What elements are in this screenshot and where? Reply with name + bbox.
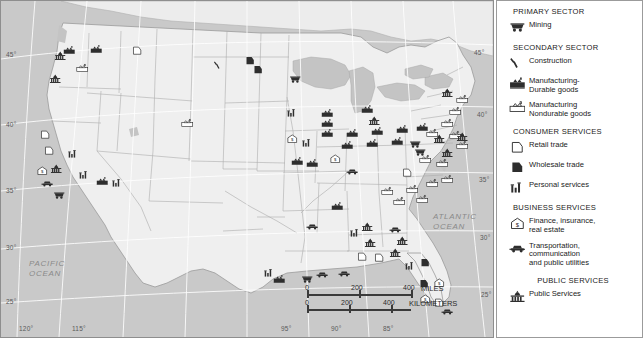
map-symbol-factory-light[interactable] [181, 113, 193, 131]
wholesale-filled-icon [505, 159, 529, 174]
lat-label-right-35: 35° [479, 176, 489, 183]
map-symbol-personal-bars[interactable] [404, 256, 416, 274]
lat-label-left-40: 40° [6, 121, 16, 128]
map-symbol-public[interactable] [49, 69, 61, 87]
legend-item-mining-cart[interactable]: Mining [505, 19, 638, 34]
legend-label: ManufacturingNondurable goods [529, 99, 591, 118]
map-symbol-personal-bars[interactable] [78, 165, 90, 183]
map-symbol-factory-dark[interactable] [331, 196, 343, 214]
map-symbol-factory-light[interactable] [419, 149, 431, 167]
scale-km-0: 0 [305, 299, 309, 306]
legend-item-factory-dark[interactable]: Manufacturing-Durable goods [505, 75, 638, 94]
scale-bar-miles: 0 200 400 MILES [297, 287, 427, 302]
personal-services-bars-icon [505, 179, 529, 194]
legend-item-wholesale-filled[interactable]: Wholesale trade [505, 159, 638, 174]
map-symbol-factory-dark[interactable] [391, 131, 403, 149]
map-symbol-personal-bars[interactable] [111, 173, 123, 191]
legend-heading-secondary-sector: SECONDARY SECTOR [513, 43, 638, 52]
legend-item-transportation-car[interactable]: Transportation,communicationand public u… [505, 240, 638, 268]
mining-cart-icon [505, 19, 529, 34]
map-symbol-factory-dark[interactable] [341, 135, 353, 153]
lat-label-left-30: 30° [6, 244, 16, 251]
atlantic-ocean-label: ATLANTICOCEAN [433, 212, 477, 232]
lat-label-left-25: 25° [6, 298, 16, 305]
lon-label-120: 120° [19, 325, 33, 332]
map-symbol-factory-dark[interactable] [291, 151, 303, 169]
map-panel[interactable]: PACIFICOCEAN ATLANTICOCEAN 45° 40° 35° 3… [0, 0, 494, 338]
map-symbol-personal-bars[interactable] [301, 133, 313, 151]
legend-item-public-services-capitol[interactable]: Public Services [505, 288, 638, 303]
map-symbol-transportation-car[interactable] [346, 161, 358, 179]
map-symbol-factory-light[interactable] [381, 181, 393, 199]
legend-label: Personal services [529, 179, 589, 190]
map-symbol-factory-dark[interactable] [321, 123, 333, 141]
map-symbol-mining-cart[interactable] [53, 185, 65, 203]
legend-label: Transportation,communicationand public u… [529, 240, 589, 268]
legend-label: Finance, insurance,real estate [529, 215, 595, 234]
construction-hammer-icon [505, 55, 529, 70]
map-symbol-factory-dark[interactable] [96, 171, 108, 189]
legend-item-retail-outline[interactable]: Retail trade [505, 139, 638, 154]
map-symbol-transportation-car[interactable] [338, 263, 350, 281]
legend-panel[interactable]: PRIMARY SECTOR MiningSECONDARY SECTOR Co… [496, 0, 643, 338]
map-symbol-finance-house[interactable]: $ [329, 149, 341, 167]
retail-outline-icon [505, 139, 529, 154]
factory-light-icon [505, 99, 529, 114]
legend-label: Retail trade [529, 139, 568, 150]
pacific-ocean-label: PACIFICOCEAN [29, 259, 65, 279]
map-symbol-public[interactable] [54, 46, 66, 64]
map-symbol-retail-outline[interactable] [356, 247, 368, 265]
lon-label-115: 115° [72, 325, 86, 332]
legend-label: Public Services [529, 288, 581, 299]
scale-km-unit: KILOMETERS [409, 299, 457, 308]
map-symbol-retail-outline[interactable] [131, 41, 143, 59]
lat-label-right-30: 30° [480, 234, 490, 241]
legend-heading-primary-sector: PRIMARY SECTOR [513, 7, 638, 16]
lat-label-right-25: 25° [481, 291, 491, 298]
map-symbol-factory-dark[interactable] [90, 39, 102, 57]
lon-label-85: 85° [383, 325, 393, 332]
map-symbol-factory-light[interactable] [76, 58, 88, 76]
lat-label-left-35: 35° [6, 187, 16, 194]
transportation-car-icon [505, 240, 529, 255]
map-symbol-personal-bars[interactable] [67, 144, 79, 162]
legend-heading-public-services: PUBLIC SERVICES [509, 276, 637, 285]
map-symbol-public[interactable] [441, 83, 453, 101]
map-symbol-finance-house[interactable]: $ [286, 129, 298, 147]
legend-item-construction-hammer[interactable]: Construction [505, 55, 638, 70]
map-symbol-transportation-car[interactable] [306, 216, 318, 234]
map-symbol-retail-outline[interactable] [43, 141, 55, 159]
legend-label: Construction [529, 55, 572, 66]
map-screenshot: PACIFICOCEAN ATLANTICOCEAN 45° 40° 35° 3… [0, 0, 644, 343]
legend-label: Mining [529, 19, 551, 30]
finance-house-dollar-icon: $ [505, 215, 529, 230]
lat-label-right-40: 40° [477, 111, 487, 118]
legend-item-finance-house-dollar[interactable]: $Finance, insurance,real estate [505, 215, 638, 234]
map-symbol-transportation-car[interactable] [41, 173, 53, 191]
lat-label-left-45: 45° [6, 51, 16, 58]
map-symbol-mining-cart[interactable] [289, 69, 301, 87]
legend-item-personal-services-bars[interactable]: Personal services [505, 179, 638, 194]
map-symbol-factory-light[interactable] [456, 89, 468, 107]
map-symbol-factory-light[interactable] [441, 169, 453, 187]
map-symbol-wholesale-filled[interactable] [419, 253, 431, 271]
public-services-capitol-icon [505, 288, 529, 303]
map-symbol-personal-bars[interactable] [286, 103, 298, 121]
map-symbol-factory-dark[interactable] [306, 153, 318, 171]
map-symbol-retail-outline[interactable] [373, 248, 385, 266]
scale-miles-200: 200 [351, 284, 363, 291]
map-symbol-wholesale-filled[interactable] [252, 60, 264, 78]
legend-item-factory-light[interactable]: ManufacturingNondurable goods [505, 99, 638, 118]
map-symbol-personal-bars[interactable] [349, 223, 361, 241]
map-symbol-construction[interactable] [213, 55, 225, 73]
scale-km-200: 200 [341, 299, 353, 306]
map-symbol-factory-light[interactable] [393, 191, 405, 209]
map-symbol-public[interactable] [456, 127, 468, 145]
scale-miles-400: 400 [403, 284, 415, 291]
map-symbol-factory-light[interactable] [416, 189, 428, 207]
map-symbol-factory-dark[interactable] [366, 133, 378, 151]
map-symbol-transportation-car[interactable] [316, 264, 328, 282]
lon-label-90: 90° [331, 325, 341, 332]
map-symbol-factory-dark[interactable] [273, 269, 285, 287]
map-symbol-public[interactable] [389, 243, 401, 261]
